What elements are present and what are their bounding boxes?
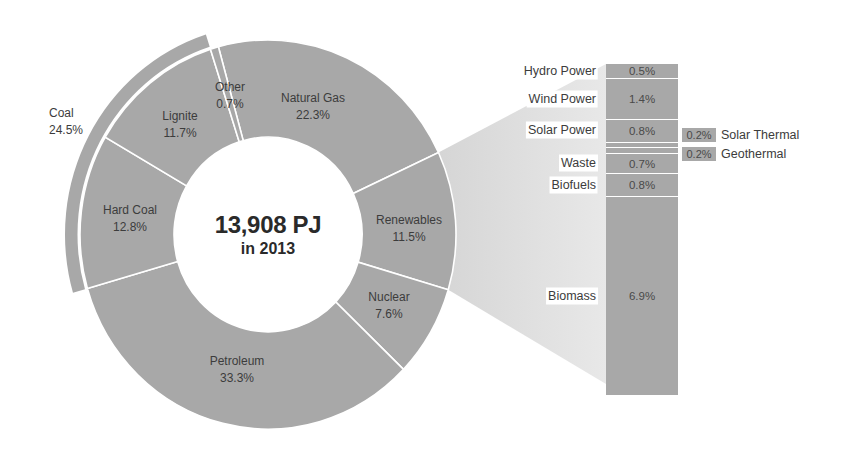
slice-label: Nuclear [368, 289, 409, 306]
slice-value: 24.5% [49, 122, 83, 139]
slice-value: 11.5% [376, 229, 442, 246]
slice-label: Natural Gas [281, 90, 345, 107]
bar-segment-value: 6.9% [629, 290, 655, 302]
bar-label-biomass: Biomass [546, 287, 598, 304]
bar-segment-value: 0.8% [629, 125, 655, 137]
slice-label: Petroleum [210, 353, 265, 370]
bar-label-solar-power: Solar Power [526, 122, 598, 139]
bar-segment-value: 1.4% [629, 93, 655, 105]
label-natural-gas: Natural Gas22.3% [281, 90, 345, 124]
bar-segment-waste: 0.7% [606, 153, 678, 173]
label-petroleum: Petroleum33.3% [210, 353, 265, 387]
slice-label: Coal [49, 105, 83, 122]
slice-value: 0.7% [215, 96, 245, 113]
bar-segment-biomass: 6.9% [606, 196, 678, 395]
callout-value-geothermal: 0.2% [682, 147, 716, 161]
bar-label-biofuels: Biofuels [550, 176, 598, 193]
bar-label-waste: Waste [559, 155, 598, 172]
bar-segment-value: 0.8% [629, 179, 655, 191]
bar-segment-solar-power: 0.8% [606, 119, 678, 142]
label-hard-coal: Hard Coal12.8% [103, 202, 157, 236]
label-coal-group: Coal24.5% [49, 105, 83, 139]
slice-label: Lignite [162, 108, 197, 125]
slice-label: Other [215, 79, 245, 96]
label-other: Other0.7% [215, 79, 245, 113]
bar-segment-wind-power: 1.4% [606, 78, 678, 118]
bar-segment-value: 0.5% [629, 65, 655, 77]
total-value: 13,908 PJ [215, 211, 322, 239]
total-year: in 2013 [215, 239, 322, 259]
slice-value: 22.3% [281, 107, 345, 124]
slice-value: 33.3% [210, 370, 265, 387]
slice-label: Renewables [376, 212, 442, 229]
callout-label-solar-thermal: Solar Thermal [721, 128, 799, 142]
bar-label-wind-power: Wind Power [527, 90, 598, 107]
callout-value-solar-thermal: 0.2% [682, 128, 716, 142]
center-total: 13,908 PJ in 2013 [215, 211, 322, 259]
slice-value: 11.7% [162, 125, 197, 142]
slice-value: 7.6% [368, 306, 409, 323]
renewables-breakdown-bar: 0.5%1.4%0.8%0.7%0.8%6.9% [606, 64, 678, 395]
bar-segment-biofuels: 0.8% [606, 173, 678, 196]
bar-segment-hydro-power: 0.5% [606, 64, 678, 78]
label-nuclear: Nuclear7.6% [368, 289, 409, 323]
slice-label: Hard Coal [103, 202, 157, 219]
bar-label-hydro-power: Hydro Power [522, 63, 598, 80]
label-renewables: Renewables11.5% [376, 212, 442, 246]
slice-value: 12.8% [103, 219, 157, 236]
bar-segment-value: 0.7% [629, 158, 655, 170]
label-lignite: Lignite11.7% [162, 108, 197, 142]
callout-label-geothermal: Geothermal [721, 147, 786, 161]
